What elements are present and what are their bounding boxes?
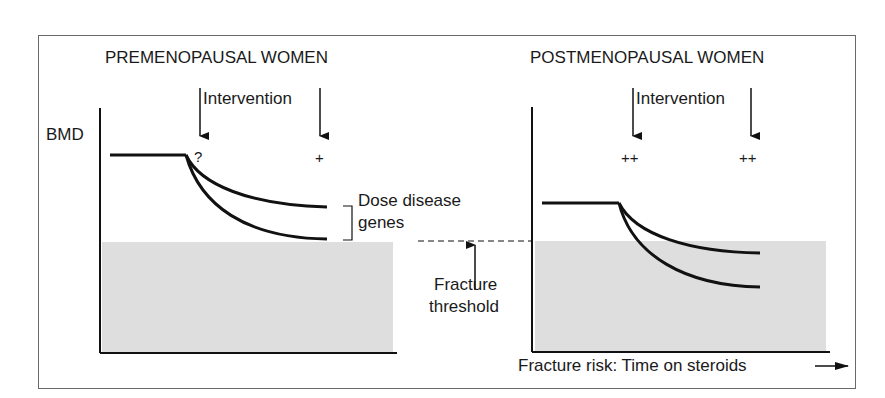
- left-lower-curve: [186, 155, 327, 239]
- dose-label-line1: Dose disease: [358, 191, 461, 211]
- threshold-label-line1: Fracture: [434, 275, 497, 295]
- dose-bracket: [343, 206, 352, 240]
- right-intervention-label: Intervention: [636, 89, 725, 109]
- left-panel-graph: [100, 88, 397, 353]
- dose-label-line2: genes: [358, 213, 404, 233]
- left-fracture-zone: [102, 242, 393, 352]
- right-panel-graph: [532, 88, 848, 366]
- threshold-label-line2: threshold: [429, 297, 499, 317]
- right-early-marker: ++: [621, 148, 639, 168]
- right-panel-title: POSTMENOPAUSAL WOMEN: [530, 48, 764, 68]
- left-early-marker: ?: [194, 147, 202, 167]
- left-panel-title: PREMENOPAUSAL WOMEN: [105, 48, 328, 68]
- x-axis-label: Fracture risk: Time on steroids: [518, 356, 747, 376]
- right-late-marker: ++: [739, 148, 757, 168]
- left-upper-curve: [186, 155, 327, 207]
- right-fracture-zone: [535, 241, 826, 351]
- left-late-marker: +: [315, 148, 324, 168]
- left-intervention-label: Intervention: [203, 89, 292, 109]
- bmd-axis-label: BMD: [46, 125, 84, 145]
